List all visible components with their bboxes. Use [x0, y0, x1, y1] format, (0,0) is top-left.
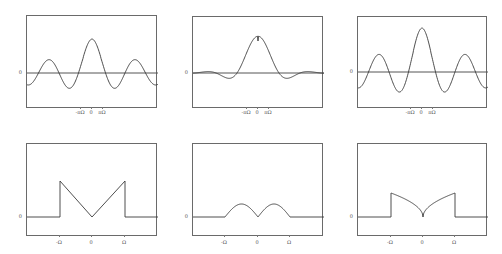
- signal-curve: [358, 28, 488, 92]
- plot-area: [27, 144, 158, 237]
- y-tick-label-zero: 0: [185, 213, 188, 219]
- x-tick-label: -Ω: [56, 239, 62, 245]
- plot-area: [358, 144, 488, 237]
- plot-panel-top-left: [26, 15, 157, 108]
- x-tick-label: -πΩ: [405, 109, 414, 115]
- plot-area: [358, 17, 488, 109]
- x-tick-label: -πΩ: [241, 109, 250, 115]
- x-tick-label: Ω: [122, 239, 126, 245]
- x-tick-label: 0: [255, 109, 258, 115]
- plot-area: [193, 17, 324, 109]
- signal-curve: [193, 36, 324, 78]
- x-tick-label: πΩ: [428, 109, 435, 115]
- y-tick-label-zero: 0: [185, 69, 188, 75]
- x-tick-label: 0: [420, 239, 423, 245]
- spectrum-curve: [27, 181, 158, 217]
- x-tick-mark: [59, 235, 60, 237]
- x-tick-label: 0: [89, 109, 92, 115]
- x-tick-mark: [454, 235, 455, 237]
- x-tick-label: -Ω: [387, 239, 393, 245]
- x-tick-mark: [422, 235, 423, 237]
- plot-panel-bottom-middle: [192, 143, 323, 236]
- plot-panel-top-right: [357, 16, 487, 108]
- plot-panel-bottom-left: [26, 143, 157, 236]
- x-tick-label: πΩ: [98, 109, 105, 115]
- signal-curve: [27, 39, 158, 88]
- x-tick-label: 0: [255, 239, 258, 245]
- y-tick-label-zero: 0: [350, 213, 353, 219]
- y-tick-label-zero: 0: [350, 68, 353, 74]
- y-tick-label-zero: 0: [19, 213, 22, 219]
- plot-area: [193, 144, 324, 237]
- plot-panel-bottom-right: [357, 143, 487, 236]
- spectrum-curve: [193, 204, 324, 217]
- x-tick-label: Ω: [452, 239, 456, 245]
- spectrum-curve: [358, 193, 488, 217]
- x-tick-label: 0: [89, 239, 92, 245]
- x-tick-label: -πΩ: [75, 109, 84, 115]
- x-tick-mark: [91, 235, 92, 237]
- x-tick-mark: [390, 235, 391, 237]
- x-tick-label: Ω: [287, 239, 291, 245]
- y-tick-label-zero: 0: [19, 69, 22, 75]
- x-tick-label: πΩ: [264, 109, 271, 115]
- x-tick-mark: [124, 235, 125, 237]
- x-tick-label: -Ω: [221, 239, 227, 245]
- x-tick-mark: [289, 235, 290, 237]
- plot-panel-top-middle: [192, 16, 323, 108]
- x-tick-mark: [224, 235, 225, 237]
- x-tick-mark: [257, 235, 258, 237]
- x-tick-label: 0: [419, 109, 422, 115]
- plot-area: [27, 16, 158, 109]
